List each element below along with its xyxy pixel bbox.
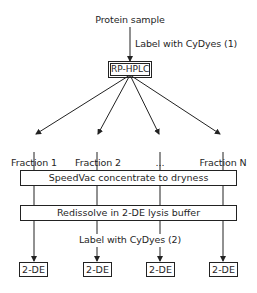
node-fraction-2: Fraction 2 <box>75 157 121 169</box>
node-protein-sample: Protein sample <box>95 14 164 26</box>
node-2de-2: 2-DE <box>83 262 112 277</box>
edge-label-cydyes-2: Label with CyDyes (2) <box>79 234 181 246</box>
node-fraction-n: Fraction N <box>199 157 246 169</box>
arrow-hplc-to-fraction-2 <box>98 75 130 134</box>
node-fraction-ellipsis: ... <box>156 157 165 169</box>
node-2de-4: 2-DE <box>209 262 238 277</box>
arrow-hplc-to-fraction-n <box>130 75 220 134</box>
arrow-hplc-to-fraction-3 <box>130 75 159 134</box>
flowchart-diagram: Protein sample Label with CyDyes (1) RP-… <box>0 0 257 293</box>
arrow-hplc-to-fraction-1 <box>36 75 130 134</box>
node-rp-hplc: RP-HPLC <box>110 63 150 76</box>
node-redissolve: Redissolve in 2-DE lysis buffer <box>20 205 237 221</box>
edge-label-cydyes-1: Label with CyDyes (1) <box>135 38 237 50</box>
node-2de-3: 2-DE <box>146 262 175 277</box>
node-fraction-1: Fraction 1 <box>11 157 57 169</box>
node-speedvac: SpeedVac concentrate to dryness <box>20 170 237 186</box>
node-2de-1: 2-DE <box>19 262 48 277</box>
